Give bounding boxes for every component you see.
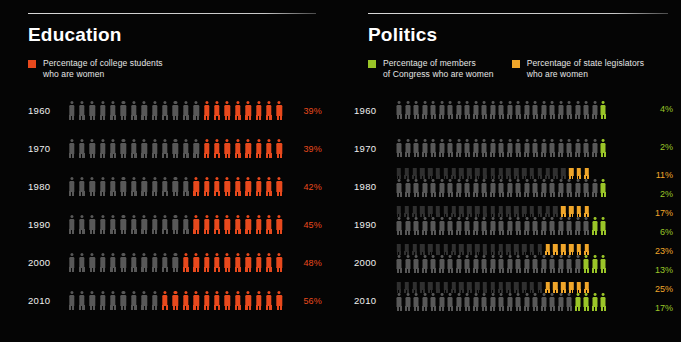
person-figure-icon (78, 177, 85, 196)
person-figure-icon (451, 282, 457, 293)
person-figure-icon (193, 177, 200, 196)
person-figure-icon (507, 101, 514, 119)
person-figure-icon (130, 253, 137, 272)
figure-band-state-legislators (396, 244, 590, 255)
person-figure-icon (568, 244, 574, 255)
person-figure-icon (213, 253, 220, 272)
person-figure-icon (447, 179, 454, 197)
row-figure-track: 39% (68, 130, 340, 168)
person-figure-icon (412, 168, 418, 179)
row-value-label: 45% (303, 220, 322, 230)
person-figure-icon (451, 244, 457, 255)
person-figure-icon (213, 101, 220, 120)
person-figure-icon (265, 139, 272, 158)
person-figure-icon (130, 139, 137, 158)
person-figure-icon (592, 255, 599, 273)
person-figure-icon (541, 217, 548, 235)
row-value-label-congress: 4% (660, 104, 673, 114)
person-figure-icon (553, 206, 559, 217)
person-figure-icon (566, 179, 573, 197)
person-figure-icon (498, 244, 504, 255)
chart-row: 197039% (28, 130, 340, 168)
person-figure-icon (203, 101, 210, 120)
person-figure-icon (245, 139, 252, 158)
person-figure-icon (110, 253, 117, 272)
person-figure-icon (447, 139, 454, 157)
person-figure-icon (583, 293, 590, 311)
person-figure-icon (89, 101, 96, 120)
figure-band-congress (396, 293, 607, 311)
person-figure-icon (404, 168, 410, 179)
person-figure-icon (182, 101, 189, 120)
person-figure-icon (473, 255, 480, 273)
person-figure-icon (506, 282, 512, 293)
person-figure-icon (456, 293, 463, 311)
person-figure-icon (245, 177, 252, 196)
person-figure-icon (521, 168, 527, 179)
row-value-label-state-legislators: 11% (656, 170, 673, 180)
person-figure-icon (396, 168, 402, 179)
person-figure-icon (575, 217, 582, 235)
person-figure-icon (482, 244, 488, 255)
person-figure-icon (439, 293, 446, 311)
person-figure-icon (515, 139, 522, 157)
person-figure-icon (498, 101, 505, 119)
person-figure-icon (498, 179, 505, 197)
person-figure-icon (422, 217, 429, 235)
person-figure-icon (276, 139, 283, 158)
row-value-label: 39% (303, 144, 322, 154)
person-figure-icon (245, 253, 252, 272)
person-figure-icon (490, 139, 497, 157)
person-figure-icon (255, 139, 262, 158)
person-figure-icon (490, 168, 496, 179)
person-figure-icon (172, 253, 179, 272)
person-figure-icon (583, 217, 590, 235)
person-figure-icon (141, 177, 148, 196)
person-figure-icon (404, 244, 410, 255)
person-figure-icon (396, 101, 403, 119)
person-figure-icon (566, 293, 573, 311)
person-figure-icon (600, 293, 607, 311)
person-figure-icon (473, 293, 480, 311)
row-figure-track: 48% (68, 244, 340, 282)
person-figure-icon (447, 217, 454, 235)
person-figure-icon (507, 217, 514, 235)
person-figure-icon (245, 215, 252, 234)
row-year-label: 1970 (354, 143, 396, 154)
person-figure-icon (162, 177, 169, 196)
person-figure-icon (566, 139, 573, 157)
person-figure-icon (405, 101, 412, 119)
person-figure-icon (172, 291, 179, 310)
person-figure-icon (592, 101, 599, 119)
person-figure-icon (276, 291, 283, 310)
legend-item-congress: Percentage of members of Congress who ar… (368, 58, 494, 80)
person-figure-icon (541, 293, 548, 311)
chart-row: 201025%17% (354, 282, 681, 320)
person-figure-icon (545, 244, 551, 255)
person-figure-icon (524, 293, 531, 311)
person-figure-icon (110, 177, 117, 196)
person-figure-icon (151, 139, 158, 158)
person-figure-icon (560, 244, 566, 255)
person-figure-icon (583, 255, 590, 273)
person-figure-icon (474, 206, 480, 217)
person-figure-icon (532, 293, 539, 311)
person-figure-icon (110, 215, 117, 234)
person-figure-icon (443, 168, 449, 179)
person-figure-icon (182, 215, 189, 234)
person-figure-icon (560, 168, 566, 179)
person-figure-icon (203, 139, 210, 158)
person-figure-icon (515, 255, 522, 273)
chart-row: 198042% (28, 168, 340, 206)
person-figure-icon (498, 293, 505, 311)
person-figure-icon (405, 179, 412, 197)
chart-row: 19702% (354, 130, 681, 168)
person-figure-icon (464, 255, 471, 273)
person-figure-icon (524, 255, 531, 273)
person-figure-icon (435, 244, 441, 255)
row-figure-track: 42% (68, 168, 340, 206)
person-figure-icon (89, 253, 96, 272)
person-figure-icon (234, 253, 241, 272)
person-figure-icon (481, 179, 488, 197)
person-figure-icon (545, 282, 551, 293)
